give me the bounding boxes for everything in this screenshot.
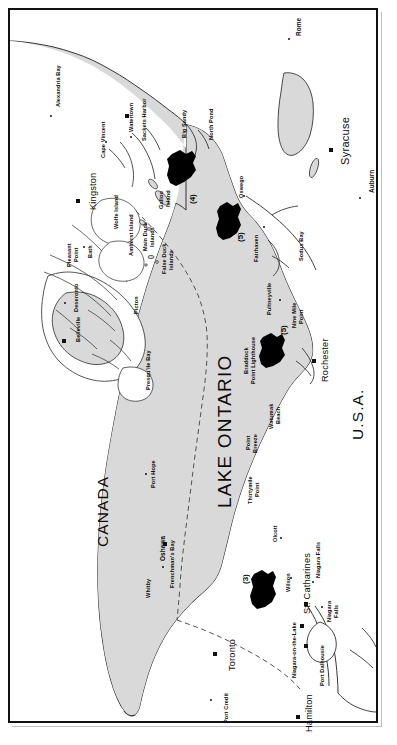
map-label-hamilton: Hamilton xyxy=(305,694,314,732)
map-label-pleasant-point-1: Pleasant xyxy=(67,243,73,267)
map-label-st-catharines: St. Catharines xyxy=(303,553,312,614)
map-label-galloo-1: Galloo xyxy=(159,191,165,209)
map-label-kingston: Kingston xyxy=(89,173,98,210)
map-label-olcott: Olcott xyxy=(273,525,279,542)
map-label-sackets-harbor: Sackets Harbor xyxy=(142,99,148,141)
map-label-watumak-2: Beach xyxy=(276,407,282,424)
map-label-presquile-bay: Presqu'ile Bay xyxy=(146,350,152,390)
map-label-auburn: Auburn xyxy=(369,170,375,193)
map-label-whitby: Whitby xyxy=(146,579,152,598)
map-label-galloo-2: Island xyxy=(166,190,172,207)
map-label-watertown: Watertown xyxy=(129,103,135,132)
map-label-nine-mile-2: Point xyxy=(299,310,305,324)
map-label-false-duck-1: False Duck xyxy=(162,243,168,274)
map-label-niagara-falls-ny-1: Niagara xyxy=(327,601,333,622)
map-label-pultneyville: Pultneyville xyxy=(267,283,273,315)
map-label-picton: Picton xyxy=(134,296,140,314)
map-label-toronto: Toronto xyxy=(228,639,237,671)
map-label-oswego: Oswego xyxy=(239,176,245,198)
map-label-niagara-on-the-lake: Niagara-on-the-Lake xyxy=(292,622,298,678)
map-label-pleasant-point-2: Point xyxy=(74,248,80,262)
map-label-bath: Bath xyxy=(88,245,94,258)
map-label-oshawa: Oshawa xyxy=(160,536,166,561)
map-label-cape-vincent: Cape Vincent xyxy=(101,121,107,158)
map-label-alexandria-bay: Alexandria Bay xyxy=(56,65,62,107)
map-label-main-duck-2: Islands xyxy=(150,227,156,247)
map-label-layer: Alexandria BayKingstonPleasantPointBathD… xyxy=(10,10,376,721)
map-label-thirtymile-2: Point xyxy=(255,483,261,497)
map-label-niagara-falls-ny-2: Falls xyxy=(334,605,340,618)
map-label-point-breeze-2: Breeze xyxy=(253,434,259,453)
map-label-braddock-1: Braddock xyxy=(244,347,250,374)
map-label-port-dalhousie: Port Dalhousie xyxy=(320,645,326,686)
map-label-port-credit: Port Credit xyxy=(224,693,230,723)
map-label-wilson: Wilson xyxy=(286,573,292,592)
map-label-amherst-island: Amherst Island xyxy=(129,214,135,256)
map-label-rome: Rome xyxy=(296,18,302,36)
map-label-niagara-falls-on: Niagara Falls xyxy=(316,542,322,578)
map-label-syracuse: Syracuse xyxy=(340,117,351,165)
map-label-lake-ontario: LAKE ONTARIO xyxy=(215,355,234,508)
map-label-belleville: Belleville xyxy=(76,317,82,342)
lake-ontario-map-figure: Alexandria BayKingstonPleasantPointBathD… xyxy=(0,0,397,745)
map-label-sodus-bay: Sodus Bay xyxy=(299,231,305,261)
map-label-canada: CANADA xyxy=(95,476,111,547)
map-label-rochester: Rochester xyxy=(321,338,330,382)
map-label-point-breeze-1: Point xyxy=(246,436,252,450)
map-label-braddock-2: Point Lighthouse xyxy=(251,337,257,384)
map-label-zone-4: (4) xyxy=(189,194,197,204)
map-label-false-duck-2: Islands xyxy=(169,250,175,270)
map-label-wolfe-island: Wolfe Island xyxy=(114,195,120,229)
map-label-zone-5b: (5) xyxy=(280,325,288,335)
map-label-frenchmans-bay: Frenchman's Bay xyxy=(170,540,176,588)
map-label-zone-5a: (5) xyxy=(237,232,245,242)
map-label-north-pond: North Pond xyxy=(209,109,215,140)
map-label-port-hope: Port Hope xyxy=(151,460,157,488)
map-label-thirtymile-1: Thirtymile xyxy=(248,476,254,504)
map-label-usa: U.S.A. xyxy=(350,389,366,440)
map-label-main-duck-1: Main Duck xyxy=(143,222,149,251)
map-label-zone-3: (3) xyxy=(242,574,250,584)
map-label-big-sandy: Big Sandy xyxy=(182,110,188,138)
map-label-fairhaven: Fairhaven xyxy=(254,235,260,262)
map-label-nine-mile-1: Nine Mile xyxy=(292,303,298,328)
map-label-watumak-1: Watumak xyxy=(269,404,275,429)
map-label-deseronto: Deseronto xyxy=(74,283,80,312)
